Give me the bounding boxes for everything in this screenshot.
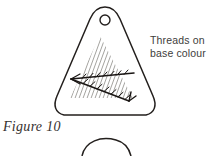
annotation-line-2: base colour bbox=[150, 47, 211, 60]
figure-page: Threads on base colour Figure 10 bbox=[0, 0, 211, 156]
threads-annotation: Threads on base colour bbox=[150, 34, 211, 60]
figure-caption: Figure 10 bbox=[3, 119, 61, 135]
hatch-fill bbox=[58, 30, 160, 112]
annotation-line-1: Threads on bbox=[150, 34, 211, 47]
next-figure-arc bbox=[82, 139, 131, 156]
pendant-hole-icon bbox=[100, 15, 110, 25]
